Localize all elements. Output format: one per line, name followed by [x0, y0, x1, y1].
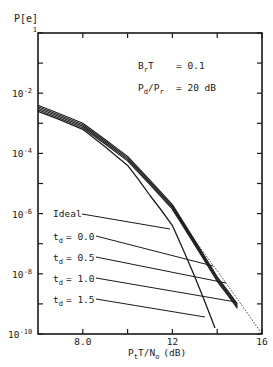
svg-text:16: 16 — [256, 336, 268, 347]
svg-text:td= 1.5: td= 1.5 — [53, 294, 95, 308]
x-tick-labels: 8.01216 — [74, 336, 268, 347]
y-axis-label: P[e] — [14, 13, 38, 24]
svg-text:= 0.1: = 0.1 — [176, 60, 205, 71]
svg-text:td= 0.5: td= 0.5 — [53, 252, 95, 266]
svg-text:10-10: 10-10 — [8, 328, 32, 340]
svg-text:10-6: 10-6 — [12, 208, 32, 220]
legend-ideal: Ideal — [53, 208, 170, 229]
svg-text:8.0: 8.0 — [74, 336, 91, 347]
svg-text:Ideal: Ideal — [53, 208, 82, 219]
chart-canvas: 110-210-410-610-810-10 8.01216 P[e] PtT/… — [0, 0, 273, 367]
svg-text:10-8: 10-8 — [12, 268, 32, 280]
svg-text:12: 12 — [167, 336, 178, 347]
x-axis-label: PtT/No(dB) — [128, 347, 186, 361]
parameter-annotation-brt: BrT = 0.1 — [138, 60, 205, 74]
svg-text:10-4: 10-4 — [12, 147, 32, 159]
svg-text:td= 0.0: td= 0.0 — [53, 231, 95, 245]
svg-text:td= 1.0: td= 1.0 — [53, 273, 95, 287]
svg-text:= 20 dB: = 20 dB — [176, 82, 216, 93]
svg-text:1: 1 — [33, 26, 37, 34]
svg-text:10-2: 10-2 — [12, 87, 32, 99]
svg-text:Pd/Pr: Pd/Pr — [138, 82, 164, 96]
y-tick-labels: 110-210-410-610-810-10 — [8, 26, 37, 340]
legend-td-1-5: td= 1.5 — [53, 294, 205, 317]
parameter-annotation-pd-pr: Pd/Pr = 20 dB — [138, 82, 216, 96]
curve-ideal — [38, 111, 215, 328]
svg-text:PtT/No(dB): PtT/No(dB) — [128, 347, 186, 361]
svg-text:BrT: BrT — [138, 60, 154, 74]
